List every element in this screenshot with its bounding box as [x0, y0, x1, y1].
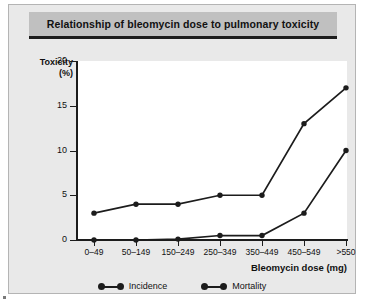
x-tick-6: [346, 241, 347, 246]
x-tick-1: [136, 241, 137, 246]
legend-item-incidence: Incidence: [98, 281, 168, 291]
legend-marker-icon: [201, 282, 227, 291]
y-tick-10: [70, 151, 76, 152]
y-tick-label-0: 0: [27, 234, 67, 244]
y-axis-line: [76, 61, 78, 241]
x-axis-title: Bleomycin dose (mg): [159, 262, 347, 273]
page-corner-mark: [3, 296, 6, 299]
y-tick-label-10: 10: [27, 145, 67, 155]
y-tick-5: [70, 195, 76, 196]
chart-title-bar: Relationship of bleomycin dose to pulmon…: [29, 12, 337, 39]
plot-area: [76, 61, 347, 240]
y-tick-0: [70, 240, 76, 241]
page-title: Relationship of bleomycin dose to pulmon…: [47, 18, 319, 30]
x-tick-2: [178, 241, 179, 246]
legend-label-incidence: Incidence: [129, 281, 168, 291]
x-tick-5: [304, 241, 305, 246]
plot-container: Toxicity (%) 20 15 10 5 0 0–49 50–149 15…: [9, 49, 355, 293]
legend-label-mortality: Mortality: [232, 281, 266, 291]
chart-figure: Relationship of bleomycin dose to pulmon…: [8, 4, 356, 294]
legend-item-mortality: Mortality: [201, 281, 266, 291]
x-tick-3: [220, 241, 221, 246]
y-axis-title-line2: (%): [17, 68, 73, 79]
y-tick-20: [70, 61, 76, 62]
y-tick-15: [70, 106, 76, 107]
y-tick-label-15: 15: [27, 100, 67, 110]
legend-marker-icon: [98, 282, 124, 291]
x-axis-line: [76, 239, 348, 241]
x-tick-0: [94, 241, 95, 246]
chart-legend: Incidence Mortality: [9, 281, 355, 291]
y-tick-label-5: 5: [27, 189, 67, 199]
x-tick-4: [262, 241, 263, 246]
y-tick-label-20: 20: [27, 55, 67, 65]
x-tick-label-6: >550: [316, 247, 365, 257]
